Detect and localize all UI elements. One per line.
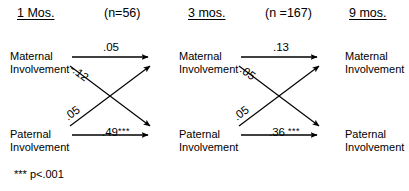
path-label-paternal-1-to-paternal-3: .49*** [102, 126, 130, 138]
sample-size-note-wave-3-9: (n =167) [265, 6, 312, 20]
path-arrows-layer [0, 0, 409, 191]
node-label-line1: Paternal [10, 128, 69, 141]
node-label-line1: Paternal [179, 128, 238, 141]
node-label-line1: Paternal [345, 128, 404, 141]
path-label-maternal-1-to-maternal-3: .05 [103, 41, 119, 53]
node-label-line2: Involvement [345, 63, 404, 76]
path-label-maternal-3-to-maternal-9: .13 [273, 41, 289, 53]
path-coefficient: .49 [102, 126, 118, 138]
wave-header-3: 3 mos. [188, 6, 226, 20]
node-label-line1: Maternal [345, 50, 404, 63]
node-maternal-involvement-wave-3: Maternal Involvement [179, 50, 238, 75]
node-paternal-involvement-wave-9: Paternal Involvement [345, 128, 404, 153]
node-maternal-involvement-wave-9: Maternal Involvement [345, 50, 404, 75]
node-paternal-involvement-wave-1: Paternal Involvement [10, 128, 69, 153]
significance-footnote: *** p<.001 [14, 168, 64, 180]
node-label-line2: Involvement [179, 141, 238, 154]
node-paternal-involvement-wave-3: Paternal Involvement [179, 128, 238, 153]
node-label-line2: Involvement [10, 141, 69, 154]
path-diagram-figure: 1 Mos. (n=56) 3 mos. (n =167) 9 mos. Mat… [0, 0, 409, 191]
node-label-line2: Involvement [345, 141, 404, 154]
node-label-line2: Involvement [179, 63, 238, 76]
node-label-line2: Involvement [10, 63, 69, 76]
significance-stars: *** [285, 126, 300, 136]
node-maternal-involvement-wave-1: Maternal Involvement [10, 50, 69, 75]
node-label-line1: Maternal [179, 50, 238, 63]
sample-size-note-wave-1-3: (n=56) [104, 6, 140, 20]
wave-header-9: 9 mos. [349, 6, 387, 20]
path-coefficient: .36 [269, 126, 285, 138]
path-label-paternal-3-to-paternal-9: .36 *** [269, 126, 300, 138]
node-label-line1: Maternal [10, 50, 69, 63]
significance-stars: *** [118, 126, 130, 136]
wave-header-1: 1 Mos. [17, 6, 55, 20]
